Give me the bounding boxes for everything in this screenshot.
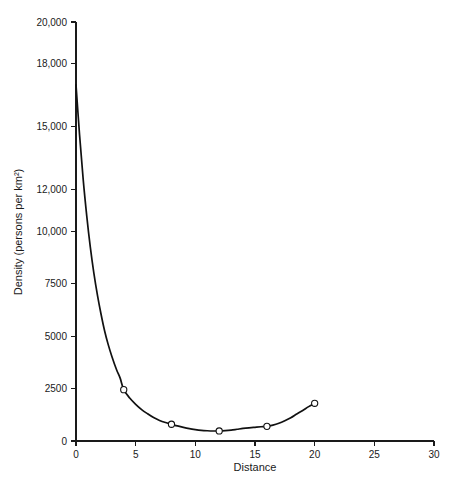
y-tick-label: 15,000 bbox=[36, 121, 67, 132]
y-tick-label: 18,000 bbox=[36, 58, 67, 69]
y-tick-label: 20,000 bbox=[36, 17, 67, 28]
x-axis-tick-labels: 051015202530 bbox=[73, 449, 440, 460]
chart-container: 051015202530 025005000750010,00012,00015… bbox=[0, 0, 454, 477]
data-markers-group bbox=[121, 387, 318, 434]
data-point-marker bbox=[168, 421, 174, 427]
x-tick-label: 0 bbox=[73, 449, 79, 460]
y-tick-label: 7500 bbox=[45, 278, 68, 289]
x-tick-label: 5 bbox=[133, 449, 139, 460]
data-point-marker bbox=[216, 428, 222, 434]
x-axis-title: Distance bbox=[234, 461, 277, 473]
data-point-marker bbox=[312, 400, 318, 406]
density-distance-line-chart: 051015202530 025005000750010,00012,00015… bbox=[0, 0, 454, 477]
x-tick-label: 15 bbox=[249, 449, 261, 460]
data-point-marker bbox=[264, 423, 270, 429]
y-tick-label: 5000 bbox=[45, 331, 68, 342]
axis-ticks-group bbox=[71, 22, 434, 446]
axes-group bbox=[76, 22, 434, 441]
x-tick-label: 20 bbox=[309, 449, 321, 460]
y-tick-label: 2500 bbox=[45, 383, 68, 394]
x-tick-label: 30 bbox=[428, 449, 440, 460]
x-tick-label: 10 bbox=[190, 449, 202, 460]
y-axis-title: Density (persons per km²) bbox=[12, 169, 24, 296]
y-tick-label: 0 bbox=[61, 436, 67, 447]
y-axis-tick-labels: 025005000750010,00012,00015,00018,00020,… bbox=[36, 17, 67, 447]
y-tick-label: 10,000 bbox=[36, 226, 67, 237]
y-tick-label: 12,000 bbox=[36, 184, 67, 195]
x-tick-label: 25 bbox=[369, 449, 381, 460]
data-curve-group bbox=[76, 85, 315, 431]
density-curve-path bbox=[76, 85, 315, 431]
data-point-marker bbox=[121, 387, 127, 393]
